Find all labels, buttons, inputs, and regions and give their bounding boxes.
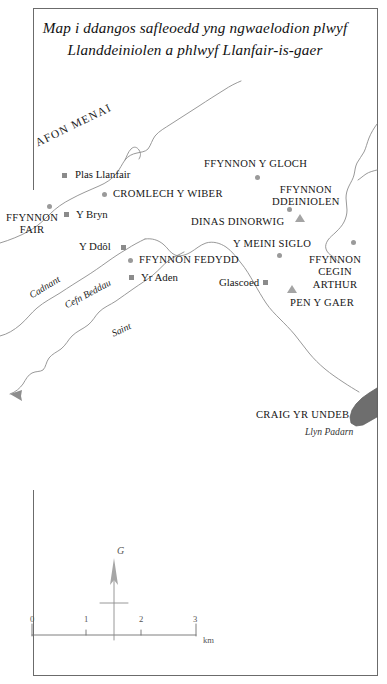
site-label-pen-y-gaer: PEN Y GAER bbox=[290, 297, 354, 308]
marker-ffynnon-y-gloch bbox=[255, 175, 260, 180]
marker-plas-llanfair bbox=[62, 173, 67, 178]
marker-dinas-dinorwig bbox=[295, 214, 305, 222]
site-label-cromlech-y-wiber: CROMLECH Y WIBER bbox=[113, 188, 223, 199]
site-label-line: DDEINIOLEN bbox=[272, 196, 340, 208]
site-label-line: CEGIN bbox=[309, 266, 361, 278]
scale-tick-1: 1 bbox=[84, 614, 88, 624]
site-label-line: FAIR bbox=[6, 224, 58, 236]
stream-arrowhead bbox=[10, 390, 22, 401]
site-label-ffynnon-ddeiniolen: FFYNNONDDEINIOLEN bbox=[272, 184, 340, 209]
scale-unit-label: km bbox=[203, 635, 214, 645]
site-label-plas-llanfair: Plas Llanfair bbox=[75, 168, 130, 180]
marker-ffynnon-fedydd bbox=[128, 258, 133, 263]
site-label-ffynnon-cegin-arthur: FFYNNONCEGINARTHUR bbox=[309, 254, 361, 291]
scale-tick-0: 0 bbox=[30, 614, 34, 624]
marker-pen-y-gaer bbox=[287, 285, 297, 293]
map-linework bbox=[0, 0, 387, 684]
site-label-ffynnon-fedydd: FFYNNON FEDYDD bbox=[139, 254, 239, 265]
scale-tick-2: 2 bbox=[139, 614, 143, 624]
river-right-spur bbox=[358, 170, 377, 180]
marker-y-ddol bbox=[121, 245, 126, 250]
site-label-craig-yr-undeb: CRAIG YR UNDEB bbox=[256, 409, 349, 420]
scale-bar-numbers: 0123 bbox=[0, 614, 387, 628]
lake-label-llyn-padarn: Llyn Padarn bbox=[305, 426, 353, 437]
site-label-yr-aden: Yr Aden bbox=[141, 271, 178, 283]
site-label-dinas-dinorwig: DINAS DINORWIG bbox=[191, 216, 284, 227]
site-label-ffynnon-fair: FFYNNONFAIR bbox=[6, 212, 58, 237]
lake-llyn-padarn bbox=[350, 388, 377, 426]
site-label-ffynnon-y-gloch: FFYNNON Y GLOCH bbox=[204, 158, 307, 169]
marker-yr-aden bbox=[129, 275, 134, 280]
marker-ffynnon-fair bbox=[47, 204, 52, 209]
scale-tick-3: 3 bbox=[193, 614, 197, 624]
site-label-line: FFYNNON bbox=[6, 212, 58, 224]
site-label-line: FFYNNON bbox=[272, 184, 340, 196]
site-label-line: FFYNNON bbox=[309, 254, 361, 266]
marker-glascoed bbox=[263, 280, 268, 285]
site-label-glascoed: Glascoed bbox=[219, 276, 259, 288]
site-label-y-ddol: Y Ddôl bbox=[79, 240, 111, 252]
site-label-y-bryn: Y Bryn bbox=[76, 208, 108, 220]
map-figure: Map i ddangos safleoedd yng ngwaelodion … bbox=[0, 0, 387, 684]
site-label-y-meini-siglo: Y MEINI SIGLO bbox=[233, 238, 311, 249]
marker-ffynnon-cegin-arthur bbox=[351, 240, 356, 245]
site-label-line: ARTHUR bbox=[309, 279, 361, 291]
marker-y-meini-siglo bbox=[277, 253, 282, 258]
marker-y-bryn bbox=[64, 212, 69, 217]
marker-cromlech-y-wiber bbox=[102, 192, 107, 197]
north-arrow-label: G bbox=[117, 545, 124, 556]
